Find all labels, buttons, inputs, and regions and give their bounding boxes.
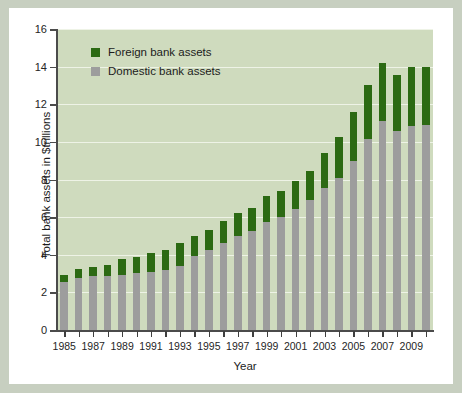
- x-axis-tick-mark-2005: [353, 331, 354, 337]
- bar-1995[interactable]: [205, 230, 213, 330]
- bar-segment-domestic-1999: [263, 222, 271, 330]
- bar-2004[interactable]: [335, 137, 343, 330]
- x-axis-tick-mark-1997: [238, 331, 239, 337]
- x-axis-tick-label-2007: 2007: [371, 340, 394, 352]
- bar-segment-domestic-1989: [118, 275, 126, 330]
- x-axis-tick-mark-2002: [310, 331, 311, 337]
- bar-1996[interactable]: [220, 221, 228, 330]
- x-axis-tick-mark-2007: [382, 331, 383, 337]
- x-axis-tick-label-2005: 2005: [342, 340, 365, 352]
- bar-segment-domestic-1996: [220, 243, 228, 330]
- y-axis-tick-mark: [50, 29, 56, 31]
- x-axis-tick-mark-1990: [137, 331, 138, 337]
- bar-2009[interactable]: [408, 67, 416, 330]
- gridline: [57, 142, 433, 143]
- bar-2002[interactable]: [306, 171, 314, 330]
- x-axis-tick-label-1995: 1995: [197, 340, 220, 352]
- bar-segment-domestic-1998: [248, 231, 256, 330]
- bar-segment-foreign-1995: [205, 230, 213, 250]
- y-axis-tick-mark: [50, 67, 56, 69]
- x-axis-tick-mark-2008: [397, 331, 398, 337]
- x-axis-tick-mark-1987: [93, 331, 94, 337]
- x-axis-tick-mark-1998: [252, 331, 253, 337]
- x-axis-tick-mark-2006: [368, 331, 369, 337]
- gridline: [57, 255, 433, 256]
- bar-segment-foreign-1985: [60, 275, 68, 283]
- bar-segment-foreign-2008: [393, 75, 401, 130]
- x-axis-tick-label-1987: 1987: [81, 340, 104, 352]
- legend-item-2[interactable]: Domestic bank assets: [91, 65, 221, 77]
- bar-1992[interactable]: [162, 250, 170, 330]
- bar-segment-foreign-1991: [147, 253, 155, 272]
- bar-2003[interactable]: [321, 153, 329, 330]
- bar-1987[interactable]: [89, 267, 97, 330]
- bar-segment-foreign-1992: [162, 250, 170, 270]
- bar-1993[interactable]: [176, 243, 184, 330]
- bar-segment-domestic-2003: [321, 188, 329, 330]
- x-axis-tick-label-1999: 1999: [255, 340, 278, 352]
- bar-1989[interactable]: [118, 259, 126, 330]
- gridline: [57, 292, 433, 293]
- bar-segment-domestic-2010: [422, 125, 430, 330]
- bar-segment-foreign-2009: [408, 67, 416, 126]
- bar-segment-foreign-1989: [118, 259, 126, 274]
- gridline: [57, 104, 433, 105]
- bar-segment-foreign-1993: [176, 243, 184, 266]
- bar-segment-domestic-1995: [205, 250, 213, 330]
- bar-segment-foreign-1998: [248, 208, 256, 232]
- bar-segment-domestic-2007: [379, 121, 387, 330]
- legend-item-1[interactable]: Foreign bank assets: [91, 46, 221, 58]
- bar-segment-domestic-1990: [133, 273, 141, 330]
- bar-segment-foreign-2001: [292, 181, 300, 208]
- bar-segment-foreign-2007: [379, 63, 387, 121]
- bar-segment-foreign-2006: [364, 85, 372, 139]
- x-axis-tick-label-2003: 2003: [313, 340, 336, 352]
- bar-1998[interactable]: [248, 208, 256, 330]
- x-axis-tick-label-1997: 1997: [226, 340, 249, 352]
- bar-1986[interactable]: [75, 269, 83, 330]
- figure-frame: 0246810121416 19851987198919911993199519…: [9, 8, 453, 384]
- gridline: [57, 180, 433, 181]
- bar-segment-domestic-1994: [191, 256, 199, 330]
- bar-1990[interactable]: [133, 257, 141, 330]
- x-axis-tick-label-2001: 2001: [284, 340, 307, 352]
- x-axis-tick-mark-2009: [411, 331, 412, 337]
- y-axis-title-wrap: Total bank assets in $trillions: [23, 29, 37, 330]
- bar-segment-domestic-2009: [408, 126, 416, 330]
- bar-segment-domestic-1993: [176, 266, 184, 330]
- legend-swatch-domestic: [91, 67, 100, 76]
- bar-2007[interactable]: [379, 63, 387, 330]
- x-axis-tick-mark-1985: [64, 331, 65, 337]
- bar-1991[interactable]: [147, 253, 155, 330]
- bar-2000[interactable]: [277, 191, 285, 330]
- bar-segment-domestic-1997: [234, 236, 242, 330]
- bar-1985[interactable]: [60, 275, 68, 330]
- bar-segment-domestic-2002: [306, 200, 314, 330]
- bar-2008[interactable]: [393, 75, 401, 330]
- x-axis-tick-label-1993: 1993: [168, 340, 191, 352]
- legend-swatch-foreign: [91, 48, 100, 57]
- bar-2001[interactable]: [292, 181, 300, 330]
- y-axis-tick-label: 0: [41, 324, 47, 336]
- bar-segment-foreign-2010: [422, 67, 430, 125]
- bar-2005[interactable]: [350, 112, 358, 330]
- bar-segment-foreign-2002: [306, 171, 314, 200]
- bar-segment-domestic-2000: [277, 217, 285, 330]
- x-axis-tick-mark-1992: [165, 331, 166, 337]
- y-axis-title: Total bank assets in $trillions: [40, 70, 52, 300]
- x-axis-tick-mark-1999: [267, 331, 268, 337]
- bar-segment-foreign-1994: [191, 236, 199, 256]
- bar-1999[interactable]: [263, 196, 271, 330]
- bar-1994[interactable]: [191, 236, 199, 330]
- x-axis-tick-mark-2000: [281, 331, 282, 337]
- x-axis-tick-label-1989: 1989: [110, 340, 133, 352]
- x-axis-tick-mark-2004: [339, 331, 340, 337]
- bar-1997[interactable]: [234, 213, 242, 330]
- bar-segment-domestic-1988: [104, 276, 112, 330]
- bar-2010[interactable]: [422, 67, 430, 330]
- bar-segment-domestic-2008: [393, 131, 401, 330]
- bar-1988[interactable]: [104, 265, 112, 330]
- y-axis-tick-mark: [50, 330, 56, 332]
- bar-segment-foreign-1988: [104, 265, 112, 276]
- bar-2006[interactable]: [364, 85, 372, 330]
